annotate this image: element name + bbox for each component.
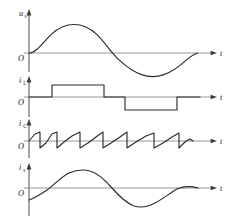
plot-il-waveform [29,85,200,110]
waveform-figure: u s O t i L O t i C O t i s [0,0,231,224]
plot-is-y-axis-arrowhead [27,163,32,169]
plot-il: i L O t [18,76,223,117]
plot-ic-x-axis-arrowhead [211,139,217,144]
plot-ic-origin-label: O [18,142,24,151]
plot-us-y-label-variable: u [19,9,23,18]
plot-is-x-axis-arrowhead [211,186,217,191]
plot-ic-y-axis-arrowhead [27,119,32,125]
plot-is-x-label: t [220,184,223,193]
plot-is-origin-label: O [18,189,24,198]
plot-is: i s O t [18,163,223,216]
waveform-svg: u s O t i L O t i C O t i s [0,0,231,224]
plot-us: u s O t [18,9,223,77]
plot-il-x-axis-arrowhead [211,95,217,100]
plot-is-waveform [29,170,198,207]
plot-il-x-label: t [220,93,223,102]
plot-ic-waveform [29,132,193,148]
plot-ic: i C O t [18,119,223,158]
plot-il-y-label-variable: i [19,76,22,85]
plot-us-origin-label: O [18,54,24,63]
plot-us-x-axis-arrowhead [211,51,217,56]
plot-is-y-label-variable: i [19,163,22,172]
plot-ic-y-label-subscript: C [23,123,27,129]
plot-ic-y-label-variable: i [19,119,22,128]
plot-is-y-label-subscript: s [23,167,25,173]
plot-us-x-label: t [220,49,223,58]
plot-us-y-label-subscript: s [25,13,27,19]
plot-us-waveform [29,25,198,77]
plot-il-y-axis-arrowhead [27,76,32,82]
plot-us-y-axis-arrowhead [27,9,32,15]
plot-il-y-label-subscript: L [23,80,26,86]
plot-il-origin-label: O [18,98,24,107]
plot-ic-x-label: t [220,137,223,146]
